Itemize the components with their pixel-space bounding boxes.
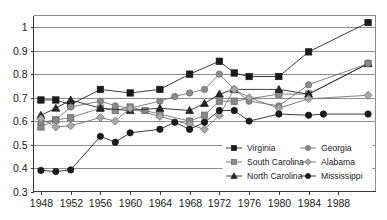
- data-point: [112, 103, 118, 109]
- data-point: [365, 19, 371, 25]
- data-point: [231, 70, 237, 76]
- data-point: [275, 85, 283, 92]
- legend-label: Mississippi: [321, 171, 363, 181]
- data-point: [305, 112, 311, 118]
- series-virginia: [38, 19, 372, 108]
- legend-marker: [231, 145, 236, 150]
- data-point: [365, 60, 371, 66]
- data-point: [67, 122, 75, 130]
- legend-marker: [305, 173, 310, 178]
- y-tick-label: 0.5: [13, 139, 28, 151]
- x-tick-label: 1964: [149, 197, 173, 209]
- data-point: [157, 126, 163, 132]
- x-tick-label: 1988: [327, 197, 351, 209]
- data-point: [201, 100, 209, 107]
- data-point: [112, 139, 118, 145]
- data-point: [52, 123, 60, 131]
- data-point: [276, 111, 282, 117]
- data-point: [67, 104, 73, 110]
- legend-label: North Carolina: [247, 171, 303, 181]
- data-point: [186, 71, 192, 77]
- x-tick-label: 1972: [208, 197, 232, 209]
- data-point: [67, 96, 75, 103]
- data-point: [53, 117, 59, 123]
- data-point: [186, 90, 192, 96]
- legend-label: South Carolina: [247, 157, 304, 167]
- legend-marker: [305, 145, 310, 150]
- data-point: [216, 98, 222, 104]
- data-point: [97, 86, 103, 92]
- y-tick-label: 1: [22, 21, 28, 33]
- y-tick-label: 0.9: [13, 45, 28, 57]
- y-tick-label: 0.7: [13, 92, 28, 104]
- data-point: [38, 97, 44, 103]
- data-point: [305, 82, 311, 88]
- x-tick-label: 1960: [119, 197, 143, 209]
- data-point: [127, 90, 133, 96]
- data-point: [67, 114, 73, 120]
- data-point: [216, 71, 222, 77]
- x-tick-label: 1948: [30, 197, 54, 209]
- data-point: [201, 119, 207, 125]
- data-point: [52, 104, 60, 111]
- y-axis-tick-labels: 0.30.40.50.60.70.80.91: [13, 21, 28, 198]
- data-point: [365, 111, 371, 117]
- data-point: [201, 112, 207, 118]
- data-point: [201, 86, 207, 92]
- data-point: [231, 98, 237, 104]
- data-point: [96, 114, 104, 122]
- legend-label: Virginia: [247, 143, 276, 153]
- data-point: [172, 119, 178, 125]
- y-tick-label: 0.3: [13, 186, 28, 198]
- data-point: [53, 168, 59, 174]
- data-point: [172, 93, 178, 99]
- data-point: [246, 118, 252, 124]
- x-tick-label: 1968: [179, 197, 203, 209]
- legend-label: Alabama: [321, 157, 355, 167]
- y-tick-label: 0.8: [13, 68, 28, 80]
- line-chart: 0.30.40.50.60.70.80.91 19481952195619601…: [0, 0, 387, 220]
- data-point: [320, 111, 326, 117]
- x-tick-label: 1984: [298, 197, 322, 209]
- data-point: [67, 167, 73, 173]
- data-point: [97, 98, 103, 104]
- x-tick-label: 1952: [60, 197, 84, 209]
- y-tick-label: 0.6: [13, 115, 28, 127]
- data-point: [157, 86, 163, 92]
- data-point: [246, 73, 252, 79]
- data-point: [38, 167, 44, 173]
- data-point: [231, 107, 237, 113]
- x-tick-label: 1980: [268, 197, 292, 209]
- legend-marker: [231, 159, 236, 164]
- x-tick-label: 1976: [238, 197, 262, 209]
- data-point: [97, 133, 103, 139]
- data-point: [216, 107, 222, 113]
- data-point: [216, 58, 222, 64]
- data-point: [186, 126, 192, 132]
- x-tick-label: 1956: [89, 197, 113, 209]
- chart-legend: VirginiaGeorgiaSouth CarolinaAlabamaNort…: [223, 141, 373, 186]
- x-axis-tick-labels: 1948195219561960196419681972197619801984…: [30, 197, 351, 209]
- legend-label: Georgia: [321, 143, 352, 153]
- y-tick-label: 0.4: [13, 162, 28, 174]
- data-point: [127, 130, 133, 136]
- data-point: [305, 49, 311, 55]
- data-point: [53, 97, 59, 103]
- data-point: [157, 98, 163, 104]
- data-point: [276, 73, 282, 79]
- chart-canvas: 0.30.40.50.60.70.80.91 19481952195619601…: [0, 0, 387, 220]
- data-point: [156, 104, 164, 111]
